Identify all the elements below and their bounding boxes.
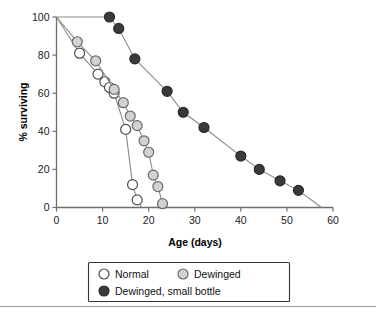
x-tick-label: 0 xyxy=(54,214,60,226)
data-point xyxy=(236,151,246,161)
series-dewinged xyxy=(57,17,168,209)
x-tick-label: 10 xyxy=(97,214,109,226)
y-tick-label: 80 xyxy=(38,49,50,61)
y-tick-label: 40 xyxy=(38,125,50,137)
data-point xyxy=(132,195,142,205)
data-point xyxy=(148,170,158,180)
y-tick-label: 60 xyxy=(38,87,50,99)
legend-marker-dewinged xyxy=(178,269,188,279)
data-point xyxy=(139,136,149,146)
legend-marker-normal xyxy=(99,269,109,279)
data-point xyxy=(125,111,135,121)
data-point xyxy=(199,122,209,132)
data-point xyxy=(254,164,264,174)
y-tick-group: 020406080100 xyxy=(32,11,57,214)
data-point xyxy=(128,180,138,190)
y-tick-label: 20 xyxy=(38,163,50,175)
x-tick-label: 20 xyxy=(143,214,155,226)
data-point xyxy=(132,121,142,131)
x-tick-group: 0102030405060 xyxy=(54,208,339,226)
y-axis-title: % surviving xyxy=(17,83,29,142)
data-point xyxy=(114,23,124,33)
data-series-group xyxy=(57,12,322,209)
data-point xyxy=(275,176,285,186)
y-tick-label: 100 xyxy=(32,11,50,23)
y-axis: 020406080100 xyxy=(32,11,57,214)
figure-container: 020406080100 0102030405060 Age (days) % … xyxy=(0,0,376,319)
legend-label-dewinged-small-bottle: Dewinged, small bottle xyxy=(115,285,221,297)
data-point xyxy=(105,12,115,22)
x-tick-label: 50 xyxy=(281,214,293,226)
y-tick-label: 0 xyxy=(44,201,50,213)
x-axis: 0102030405060 xyxy=(54,208,339,226)
data-point xyxy=(162,86,172,96)
legend-label-dewinged: Dewinged xyxy=(194,268,241,280)
legend-label-normal: Normal xyxy=(115,268,149,280)
x-tick-label: 40 xyxy=(235,214,247,226)
legend: Normal Dewinged Dewinged, small bottle xyxy=(89,263,290,302)
x-tick-label: 30 xyxy=(189,214,201,226)
data-point xyxy=(109,84,119,94)
data-point xyxy=(157,199,167,209)
data-point xyxy=(75,48,85,58)
data-point xyxy=(130,54,140,64)
data-point xyxy=(72,37,82,47)
data-point xyxy=(91,56,101,66)
x-axis-title: Age (days) xyxy=(168,236,222,248)
data-point xyxy=(153,182,163,192)
data-point xyxy=(178,107,188,117)
series-dewinged-small-bottle xyxy=(57,12,322,208)
survival-curve-chart: 020406080100 0102030405060 Age (days) % … xyxy=(0,0,376,319)
data-point xyxy=(293,185,303,195)
legend-marker-dewinged-small-bottle xyxy=(99,286,109,296)
data-point xyxy=(144,147,154,157)
data-point xyxy=(118,98,128,108)
x-tick-label: 60 xyxy=(327,214,339,226)
data-point xyxy=(121,124,131,134)
